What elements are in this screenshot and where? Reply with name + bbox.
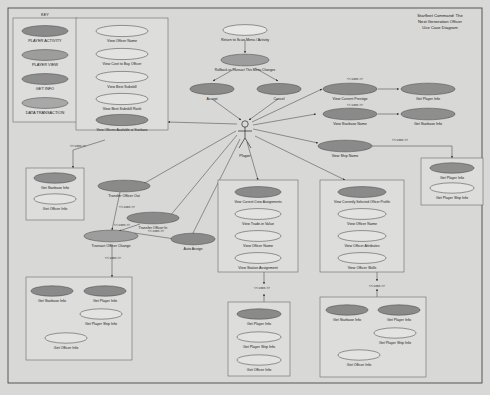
ellipse-get-player-ship-info-ship <box>430 183 474 193</box>
ellipse-get-officer-info-profile <box>338 350 380 360</box>
key-label-get-info: GET INFO <box>36 86 54 91</box>
label-view-ship-name: View Ship Name <box>332 154 359 158</box>
uses-label-starbase: << uses >> <box>347 103 363 107</box>
label-view-officer-profile: View Currently Selected Officer Profile <box>334 200 390 204</box>
uses-label-transferout: << uses >> <box>119 205 135 209</box>
title-line-2: Next Generation Officer <box>418 19 463 24</box>
label-transfer-officer-out: Transfer Officer Out <box>108 194 140 198</box>
ellipse-return-to-scan <box>223 25 267 36</box>
ellipse-get-officer-info-transact <box>45 333 87 343</box>
label-get-starbase-info-transact: Get Starbase Info <box>38 299 66 303</box>
key-label-player-activity: PLAYER ACTIVITY <box>28 38 62 43</box>
ellipse-view-officer-profile <box>338 187 386 198</box>
ellipse-rollback-transact <box>221 54 269 66</box>
connector-accept-hub <box>212 99 241 120</box>
ellipse-get-starbase-info-profile <box>326 305 368 315</box>
key-label-player-view: PLAYER VIEW <box>32 62 58 67</box>
uc-get-player-info-prestige: Get Player Info <box>401 83 455 101</box>
connector-hub-crewassignments <box>247 142 258 180</box>
ellipse-get-player-info-prestige <box>401 83 455 95</box>
uc-transfer-officer-in: Transfer Officer In <box>127 212 179 230</box>
ellipse-cancel <box>257 83 301 94</box>
key-panel: KEY PLAYER ACTIVITY PLAYER VIEW GET INFO… <box>13 12 77 122</box>
ellipse-view-officer-name <box>96 25 148 36</box>
key-item-player-activity: PLAYER ACTIVITY <box>22 26 68 43</box>
uc-view-starbase-name: View Starbase Name <box>323 108 377 126</box>
uc-transact-officer-change: Transact Officer Change <box>84 230 138 248</box>
key-ellipse-data-transaction <box>22 98 68 109</box>
label-get-officer-info-profile: Get Officer Info <box>347 363 371 367</box>
ellipse-view-station-assignment <box>235 253 281 264</box>
label-get-player-ship-info-profile: Get Player Ship Info <box>379 341 411 345</box>
connector-hub-ship-name <box>253 129 318 143</box>
ellipse-transfer-officer-in <box>127 212 179 224</box>
top-center-chain: Return to Scan Menu / Activity Rollback … <box>190 25 301 101</box>
uc-return-to-scan: Return to Scan Menu / Activity <box>221 25 269 42</box>
ellipse-get-player-info-ship <box>430 163 474 173</box>
uc-accept: Accept <box>190 83 234 101</box>
crew-assignments-group: View Current Crew Assignments View Trade… <box>218 180 298 272</box>
connector-hub-officerbrowse <box>168 122 237 124</box>
transfer-info-group: Get Starbase Info Get Officer Info <box>26 168 84 220</box>
key-ellipse-get-info <box>22 74 68 85</box>
ellipse-get-player-info-profile <box>378 305 420 315</box>
profile-info-group: Get Starbase Info Get Player Info Get Pl… <box>320 297 426 377</box>
label-accept: Accept <box>207 97 218 101</box>
ellipse-get-starbase-info-name <box>401 108 455 120</box>
key-ellipse-player-activity <box>22 26 68 37</box>
ellipse-view-officer-name-crew <box>235 231 281 242</box>
key-ellipse-player-view <box>22 50 68 61</box>
ellipse-view-officer-name-profile <box>338 209 386 220</box>
officer-profile-group: View Currently Selected Officer Profile … <box>320 180 404 272</box>
transact-info-group: Get Starbase Info Get Player Info Get Pl… <box>26 277 132 360</box>
uc-view-current-crew-assignments: View Current Crew Assignments <box>234 187 282 204</box>
ship-name-info-group: Get Player Info Get Player Ship Info <box>421 158 483 205</box>
ellipse-get-player-info-crew <box>237 309 281 319</box>
uses-label-prestige: << uses >> <box>347 77 363 81</box>
right-column-use-cases: View Current Prestige Get Player Info Vi… <box>318 83 455 158</box>
uc-auto-assign: Auto Assign <box>171 233 215 251</box>
label-get-starbase-info-profile: Get Starbase Info <box>333 318 361 322</box>
label-view-officers-available: View Officers Available at Starbase <box>96 128 147 132</box>
uc-get-player-ship-info-ship: Get Player Ship Info <box>430 183 474 200</box>
key-title: KEY <box>41 12 49 17</box>
label-get-officer-info-transfer: Get Officer Info <box>43 207 67 211</box>
ellipse-transact-officer-change <box>84 230 138 242</box>
uc-cancel: Cancel <box>257 83 301 101</box>
connector-hub-transferout <box>143 131 236 184</box>
label-view-officer-name-crew: View Officer Name <box>243 244 273 248</box>
uc-rollback-transact: Rollback or Transact This Menu Changes <box>215 54 276 72</box>
ellipse-get-officer-info-crew <box>237 355 281 365</box>
label-view-station-assignment: View Station Assignment <box>238 266 278 270</box>
ellipse-view-current-prestige <box>323 83 377 95</box>
label-get-player-info-transact: Get Player Info <box>93 299 117 303</box>
transfer-cluster: Transfer Officer Out Transfer Officer In… <box>84 180 215 251</box>
label-view-officer-name: View Officer Name <box>107 39 137 43</box>
label-get-starbase-info-transfer: Get Starbase Info <box>41 186 69 190</box>
officer-browse-group: View Officer Name View Cost to Buy Offic… <box>76 18 168 132</box>
uses-label-crewinfo: << uses >> <box>254 286 270 290</box>
label-get-starbase-info-name: Get Starbase Info <box>414 122 442 126</box>
ellipse-get-player-ship-info-crew <box>237 332 281 342</box>
ellipse-view-ship-name <box>318 140 372 152</box>
actor-label-player: Player <box>239 153 251 158</box>
connector-transact-autoassign <box>134 233 175 239</box>
label-view-officer-attributes: View Officer Attributes <box>344 244 379 248</box>
ellipse-get-starbase-info-transact <box>31 286 73 296</box>
ellipse-view-current-crew-assignments <box>235 187 281 198</box>
ellipse-get-player-info-transact <box>84 286 126 296</box>
label-view-current-prestige: View Current Prestige <box>333 97 368 101</box>
uc-view-officer-attributes: View Officer Attributes <box>338 231 386 248</box>
label-transfer-officer-in: Transfer Officer In <box>139 226 168 230</box>
diagram-title: Starfleet Command: The Next Generation O… <box>417 13 463 30</box>
label-rollback-transact: Rollback or Transact This Menu Changes <box>215 68 276 72</box>
label-view-current-crew-assignments: View Current Crew Assignments <box>234 200 282 204</box>
ellipse-auto-assign <box>171 233 215 245</box>
key-label-data-transaction: DATA TRANSACTION <box>26 110 65 115</box>
ellipse-view-best-subskill-rank <box>96 93 148 104</box>
uses-label-transact: << uses >> <box>105 256 121 260</box>
ellipse-view-best-subskill <box>96 71 148 82</box>
key-item-data-transaction: DATA TRANSACTION <box>22 98 68 115</box>
use-case-diagram-page: Starfleet Command: The Next Generation O… <box>0 0 490 395</box>
connector-hub-starbase-name <box>253 114 316 125</box>
